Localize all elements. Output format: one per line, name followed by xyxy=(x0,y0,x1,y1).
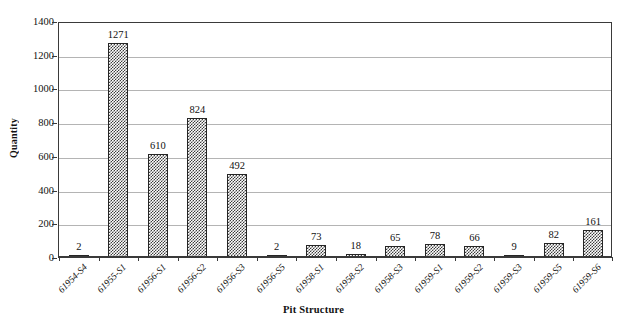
bar-value-label: 1271 xyxy=(108,29,129,40)
x-tick-mark xyxy=(376,257,377,261)
bar[interactable] xyxy=(583,230,603,257)
bar-value-label: 82 xyxy=(548,229,559,240)
bar-group[interactable]: 2 xyxy=(257,23,297,257)
x-tick-mark xyxy=(573,257,574,261)
bar-group[interactable]: 492 xyxy=(217,23,257,257)
y-tick-label: 200 xyxy=(2,219,54,229)
bar-value-label: 161 xyxy=(585,216,601,227)
bar-value-label: 66 xyxy=(469,232,480,243)
bar-value-label: 824 xyxy=(190,104,206,115)
x-axis-tick-labels: 61954-S461955-S161956-S161956-S261956-S3… xyxy=(58,262,612,308)
bar-group[interactable]: 1271 xyxy=(99,23,139,257)
x-tick-mark xyxy=(178,257,179,261)
bar-group[interactable]: 65 xyxy=(376,23,416,257)
x-tick-mark xyxy=(257,257,258,261)
bar-group[interactable]: 161 xyxy=(573,23,613,257)
bar-chart: Quantity 0200400600800100012001400 21271… xyxy=(0,0,627,330)
x-tick-mark xyxy=(59,257,60,261)
bar[interactable] xyxy=(108,43,128,257)
x-axis-line xyxy=(59,256,611,257)
bar-group[interactable]: 66 xyxy=(455,23,495,257)
x-tick-mark xyxy=(494,257,495,261)
y-tick-label: 400 xyxy=(2,186,54,196)
bar-group[interactable]: 18 xyxy=(336,23,376,257)
y-tick-mark xyxy=(52,123,57,124)
x-tick-mark xyxy=(296,257,297,261)
bar-group[interactable]: 73 xyxy=(296,23,336,257)
bar-group[interactable]: 9 xyxy=(494,23,534,257)
y-tick-mark xyxy=(52,224,57,225)
bar-value-label: 9 xyxy=(511,241,516,252)
x-axis-title: Pit Structure xyxy=(0,304,627,315)
bar-group[interactable]: 82 xyxy=(534,23,574,257)
y-tick-label: 1000 xyxy=(2,84,54,94)
bar[interactable] xyxy=(227,174,247,257)
y-tick-label: 800 xyxy=(2,118,54,128)
x-tick-mark xyxy=(138,257,139,261)
y-tick-mark xyxy=(52,56,57,57)
y-tick-label: 1200 xyxy=(2,51,54,61)
bar-value-label: 78 xyxy=(430,230,441,241)
bar-value-label: 492 xyxy=(229,160,245,171)
x-tick-mark xyxy=(534,257,535,261)
bar-group[interactable]: 610 xyxy=(138,23,178,257)
x-tick-mark xyxy=(99,257,100,261)
x-tick-mark xyxy=(415,257,416,261)
bars-layer: 2127161082449227318657866982161 xyxy=(59,23,611,257)
bar-value-label: 2 xyxy=(274,241,279,252)
bar-value-label: 73 xyxy=(311,231,322,242)
x-tick-mark xyxy=(455,257,456,261)
y-axis-ticks: 0200400600800100012001400 xyxy=(0,0,54,330)
y-tick-mark xyxy=(52,191,57,192)
bar-value-label: 2 xyxy=(76,241,81,252)
y-tick-label: 1400 xyxy=(2,17,54,27)
bar-value-label: 65 xyxy=(390,232,401,243)
bar[interactable] xyxy=(148,154,168,257)
x-tick-mark xyxy=(612,257,613,261)
y-tick-mark xyxy=(52,157,57,158)
bar[interactable] xyxy=(187,118,207,257)
y-tick-label: 0 xyxy=(2,253,54,263)
bar-group[interactable]: 2 xyxy=(59,23,99,257)
y-tick-mark xyxy=(52,89,57,90)
bar-value-label: 18 xyxy=(351,240,362,251)
bar-value-label: 610 xyxy=(150,140,166,151)
plot-area: 2127161082449227318657866982161 xyxy=(58,22,612,258)
x-tick-mark xyxy=(336,257,337,261)
bar-group[interactable]: 78 xyxy=(415,23,455,257)
x-tick-mark xyxy=(217,257,218,261)
y-tick-mark xyxy=(52,258,57,259)
y-tick-label: 600 xyxy=(2,152,54,162)
y-tick-mark xyxy=(52,22,57,23)
bar-group[interactable]: 824 xyxy=(178,23,218,257)
